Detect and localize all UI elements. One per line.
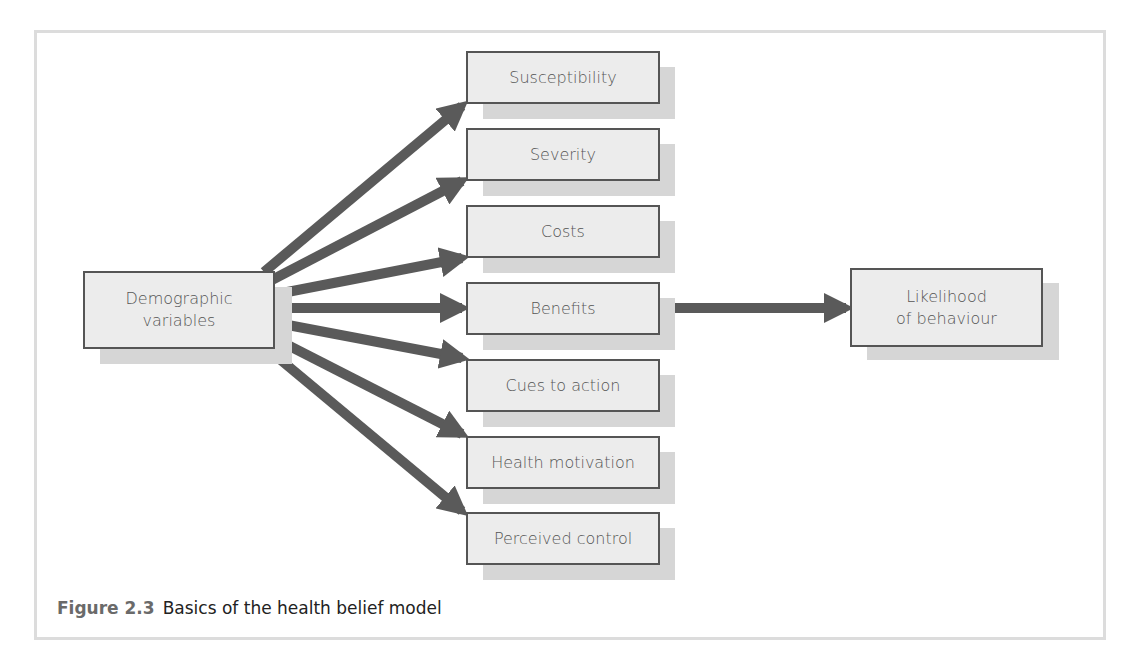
node-label: Perceived control: [494, 528, 632, 550]
figure-number: Figure 2.3: [57, 598, 155, 618]
node-label: Severity: [530, 144, 596, 166]
node-costs: Costs: [466, 205, 660, 258]
arrow-to-susceptibility: [264, 106, 462, 272]
node-label: Costs: [541, 221, 585, 243]
source-node-line1: Demographic: [125, 288, 232, 310]
node-susceptibility: Susceptibility: [466, 51, 660, 104]
source-node-line2: variables: [125, 310, 232, 332]
node-severity: Severity: [466, 128, 660, 181]
outcome-node-line1: Likelihood: [896, 286, 997, 308]
node-label: Cues to action: [506, 375, 621, 397]
node-label: Susceptibility: [509, 67, 616, 89]
source-node-demographic-variables: Demographic variables: [83, 271, 275, 349]
node-label: Benefits: [531, 298, 596, 320]
node-cues-to-action: Cues to action: [466, 359, 660, 412]
node-label: Health motivation: [491, 452, 635, 474]
node-perceived-control: Perceived control: [466, 512, 660, 565]
outcome-node-likelihood-of-behaviour: Likelihood of behaviour: [850, 268, 1043, 347]
node-health-motivation: Health motivation: [466, 436, 660, 489]
node-benefits: Benefits: [466, 282, 660, 335]
outcome-node-line2: of behaviour: [896, 308, 997, 330]
figure-caption: Figure 2.3Basics of the health belief mo…: [57, 598, 442, 618]
arrow-to-perceived-control: [264, 346, 462, 511]
figure-title: Basics of the health belief model: [163, 598, 442, 618]
